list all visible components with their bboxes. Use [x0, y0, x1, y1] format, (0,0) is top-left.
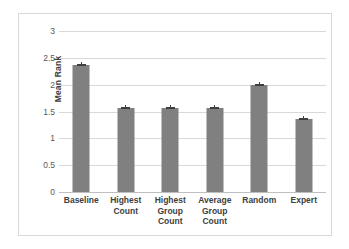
bar-slot: [282, 31, 327, 192]
error-bar-cap: [299, 118, 308, 120]
bar[interactable]: [117, 108, 134, 192]
y-axis-tick-label: 1.5: [43, 107, 55, 117]
x-axis-tick-label: Expert: [282, 195, 327, 206]
x-axis-tick-label: Random: [237, 195, 282, 206]
x-axis-tick-label: Baseline: [59, 195, 104, 206]
gridline: 0: [59, 192, 326, 193]
bar-slot: [148, 31, 193, 192]
bar-slot: [59, 31, 104, 192]
bar[interactable]: [206, 108, 223, 192]
plot-area: 32.521.510.50: [59, 31, 326, 192]
y-axis-tick-label: 2: [50, 80, 55, 90]
bar-slot: [237, 31, 282, 192]
x-axis-tick-label: Average Group Count: [193, 195, 238, 227]
bar[interactable]: [73, 65, 90, 192]
x-axis-tick-label: Highest Group Count: [148, 195, 193, 227]
error-bar-cap: [210, 107, 219, 109]
bar[interactable]: [295, 119, 312, 192]
bar-slot: [104, 31, 149, 192]
x-axis-tick-label: Highest Count: [104, 195, 149, 216]
error-bar-cap: [166, 107, 175, 109]
error-bar-cap: [77, 64, 86, 66]
error-bar-cap: [121, 107, 130, 109]
bar[interactable]: [251, 85, 268, 192]
y-axis-tick-label: 2.5: [43, 53, 55, 63]
y-axis-tick-label: 1: [50, 133, 55, 143]
bar-series: [59, 31, 326, 192]
y-axis-tick-label: 3: [50, 26, 55, 36]
chart-container: Mean Rank 32.521.510.50 BaselineHighest …: [18, 13, 332, 236]
x-axis-tick-labels: BaselineHighest CountHighest Group Count…: [59, 195, 326, 237]
error-bar-cap: [255, 84, 264, 86]
y-axis-tick-label: 0.5: [43, 160, 55, 170]
bar[interactable]: [162, 108, 179, 192]
bar-slot: [193, 31, 238, 192]
y-axis-tick-label: 0: [50, 187, 55, 197]
